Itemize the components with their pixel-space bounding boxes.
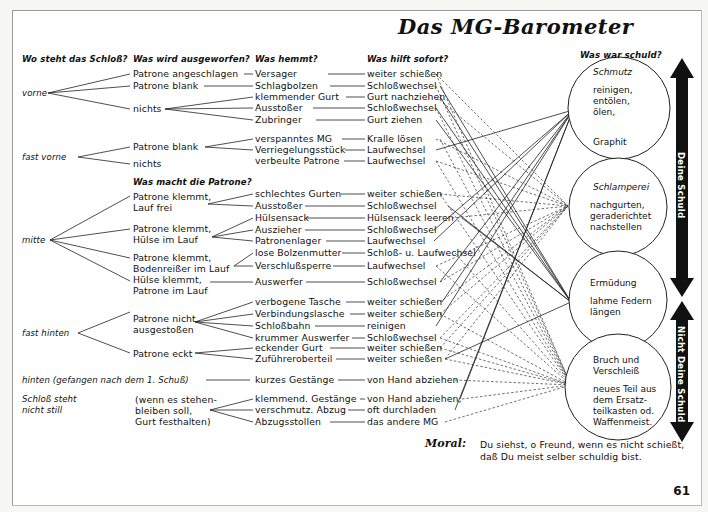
fix-item: weiter schießen xyxy=(367,296,442,307)
circle-schlamperei-line: geraderichtet xyxy=(590,211,651,222)
circle-bruch-heading: Bruch und xyxy=(593,355,639,366)
header-lock-position: Wo steht das Schloß? xyxy=(22,54,128,65)
ejected-item: Patrone eckt xyxy=(133,348,192,359)
cause-item: Ausstoßer xyxy=(255,102,303,113)
cause-item: Zuführeroberteil xyxy=(255,353,333,364)
cause-item: verbeulte Patrone xyxy=(255,155,340,166)
moral-line-2: daß Du meist selber schuldig bist. xyxy=(480,451,642,462)
cause-item: Schloßbahn xyxy=(255,320,310,331)
fix-item: Hülsensack leeren xyxy=(367,212,454,223)
ejected-item: (wenn es stehen- xyxy=(135,394,217,405)
position-steht-nicht-1: Schloß steht xyxy=(22,394,77,405)
header-jam-cause: Was hemmt? xyxy=(255,54,318,65)
cause-item: Verschlußsperre xyxy=(255,260,331,271)
position-fast-vorne: fast vorne xyxy=(22,152,66,163)
position-steht-nicht-2: nicht still xyxy=(22,405,62,416)
cause-item: Verriegelungsstück xyxy=(255,144,346,155)
cause-item: verbogene Tasche xyxy=(255,296,341,307)
circle-schlamperei-line: nachstellen xyxy=(590,222,642,233)
fix-item: Gurt ziehen xyxy=(367,114,422,125)
ejected-item: Patrone nicht xyxy=(133,313,196,324)
fix-item: Schloßwechsel xyxy=(367,276,437,287)
cause-item: verschmutz. Abzug xyxy=(255,404,346,415)
fix-item: weiter schießen xyxy=(367,68,442,79)
cause-item: klemmend. Gestänge xyxy=(255,393,357,404)
circle-bruch-line: neues Teil aus xyxy=(593,384,656,395)
circle-ermuedung-line: lahme Federn xyxy=(590,296,652,307)
ejected-item: Patrone blank xyxy=(133,141,198,152)
cause-item: verspanntes MG xyxy=(255,133,332,144)
fix-item: oft durchladen xyxy=(367,404,436,415)
fix-item: Kralle lösen xyxy=(367,133,422,144)
cause-item: Hülsensack xyxy=(255,212,309,223)
ejected-item: Hülse im Lauf xyxy=(133,234,198,245)
position-fast-hinten: fast hinten xyxy=(22,328,69,339)
fix-item: Schloßwechsel xyxy=(367,102,437,113)
circle-bruch-line: dem Ersatz- xyxy=(593,395,647,406)
cause-item: Ausstoßer xyxy=(255,200,303,211)
ejected-item: Patrone angeschlagen xyxy=(133,68,238,79)
fix-item: von Hand abziehen, xyxy=(367,393,462,404)
page-number: 61 xyxy=(673,484,690,498)
arrow-label-your-fault: Deine Schuld xyxy=(676,152,686,218)
arrow-label-not-your-fault: Nicht Deine Schuld xyxy=(676,326,686,422)
circle-bruch-line: Waffenmeist. xyxy=(593,417,652,428)
ejected-item: nichts xyxy=(133,103,162,114)
fix-item: das andere MG xyxy=(367,416,438,427)
fix-item: Schloßwechsel xyxy=(367,80,437,91)
header-immediate-fix: Was hilft sofort? xyxy=(367,54,448,65)
header-ejected: Was wird ausgeworfen? xyxy=(133,54,250,65)
ejected-item: Lauf frei xyxy=(133,202,172,213)
cause-item: Auswerfer xyxy=(255,276,303,287)
position-vorne: vorne xyxy=(22,88,47,99)
page-title: Das MG-Barometer xyxy=(398,14,633,39)
header-cartridge-behavior: Was macht die Patrone? xyxy=(133,177,252,188)
moral-line-1: Du siehst, o Freund, wenn es nicht schie… xyxy=(480,439,684,450)
fix-item: weiter schießen xyxy=(367,342,442,353)
ejected-item: bleiben soll, xyxy=(135,405,192,416)
fix-item: weiter schießen xyxy=(367,353,442,364)
fix-item: von Hand abziehen xyxy=(367,374,458,385)
cause-item: kurzes Gestänge xyxy=(255,374,334,385)
circle-ermuedung-line: längen xyxy=(590,307,621,318)
fix-item: weiter schießen xyxy=(367,188,442,199)
cause-item: eckender Gurt xyxy=(255,342,323,353)
cause-item: Patronenlager xyxy=(255,235,321,246)
cause-item: Auszieher xyxy=(255,224,302,235)
ejected-item: Patrone klemmt, xyxy=(133,223,211,234)
fix-item: Schloßwechsel xyxy=(367,200,437,211)
fix-item: Laufwechsel xyxy=(367,144,425,155)
fix-item: Laufwechsel xyxy=(367,155,425,166)
fix-item: reinigen xyxy=(367,320,406,331)
cause-item: klemmender Gurt xyxy=(255,91,339,102)
position-hinten: hinten (gefangen nach dem 1. Schuß) xyxy=(22,375,189,386)
ejected-item: ausgestoßen xyxy=(133,324,194,335)
fix-item: Gurt nachziehen xyxy=(367,91,445,102)
cause-item: Versager xyxy=(255,68,297,79)
circle-ermuedung-heading: Ermüdung xyxy=(590,278,637,289)
fix-item: weiter schießen xyxy=(367,308,442,319)
cause-item: Abzugsstollen xyxy=(255,416,321,427)
circle-bruch-line: teilkasten od. xyxy=(593,406,654,417)
circle-schmutz-line: reinigen, xyxy=(593,85,633,96)
fix-item: Schloßwechsel xyxy=(367,224,437,235)
ejected-item: nichts xyxy=(133,158,162,169)
fix-item: Laufwechsel xyxy=(367,235,425,246)
header-fault: Was war schuld? xyxy=(580,50,662,61)
circle-schmutz-heading: Schmutz xyxy=(593,67,632,78)
circle-schmutz-line: Graphit xyxy=(593,137,627,148)
cause-item: Schlagbolzen xyxy=(255,80,318,91)
position-mitte: mitte xyxy=(22,235,45,246)
ejected-item: Patrone klemmt, xyxy=(133,252,211,263)
circle-schmutz-line: entölen, xyxy=(593,96,630,107)
cause-item: lose Bolzenmutter xyxy=(255,247,341,258)
fix-item: Laufwechsel xyxy=(367,260,425,271)
circle-bruch-heading-2: Verschleiß xyxy=(593,366,639,377)
cause-item: Verbindungslasche xyxy=(255,308,345,319)
ejected-item: Patrone klemmt, xyxy=(133,191,211,202)
ejected-item: Patrone blank xyxy=(133,80,198,91)
ejected-item: Gurt festhalten) xyxy=(135,416,211,427)
fix-item: Schloß- u. Laufwechsel xyxy=(367,247,476,258)
cause-item: Zubringer xyxy=(255,114,302,125)
ejected-item: Patrone im Lauf xyxy=(133,285,208,296)
